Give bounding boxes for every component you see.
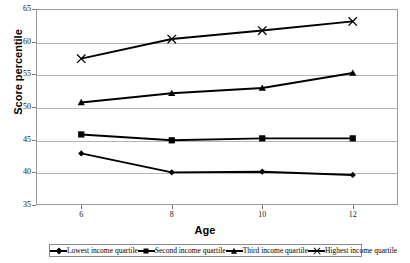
x-tick [81,205,82,209]
gridline [37,43,397,44]
legend-key-marker [312,246,321,255]
legend-item[interactable]: Third income quartile [226,245,308,256]
plot-area [36,9,398,205]
chart-legend: Lowest income quartileSecond income quar… [49,244,362,257]
cross-marker-icon [308,246,325,255]
y-tick-label: 55 [11,69,31,78]
y-tick-label: 40 [11,167,31,176]
gridline [37,141,397,142]
y-tick [32,205,36,206]
legend-item[interactable]: Second income quartile [138,245,226,256]
x-tick [262,205,263,209]
x-axis-title: Age [0,224,410,236]
y-tick-label: 60 [11,37,31,46]
legend-item[interactable]: Lowest income quartile [50,245,138,256]
gridline [37,108,397,109]
legend-item[interactable]: Highest income quartile [308,245,397,256]
legend-item-label: Second income quartile [155,246,226,255]
square-marker-icon [138,246,155,255]
x-tick-label: 12 [338,210,368,219]
legend-key-marker [55,247,62,254]
y-tick-label: 50 [11,102,31,111]
triangle-marker-icon [226,246,243,255]
legend-item-label: Lowest income quartile [67,246,138,255]
x-tick [172,205,173,209]
gridline [37,173,397,174]
x-tick-label: 8 [157,210,187,219]
x-tick [353,205,354,209]
legend-item-label: Third income quartile [243,246,308,255]
legend-key-marker [231,247,237,253]
y-tick-label: 65 [11,4,31,13]
legend-key-marker [144,248,149,253]
line-chart: Score percentile 35404550556065 681012 A… [0,0,410,263]
x-tick-label: 6 [66,210,96,219]
diamond-marker-icon [50,246,67,255]
gridline [37,75,397,76]
x-tick-label: 10 [247,210,277,219]
legend-item-label: Highest income quartile [325,246,397,255]
y-tick-label: 35 [11,200,31,209]
y-tick-label: 45 [11,135,31,144]
